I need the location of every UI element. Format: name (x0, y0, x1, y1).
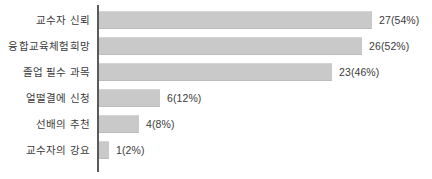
bar-value-label: 27(54%) (379, 10, 419, 30)
bar-value-label: 4(8%) (146, 114, 175, 134)
bar-fill (99, 141, 109, 159)
bar-fill (99, 11, 372, 29)
bar-fill (99, 37, 362, 55)
bar-value-label: 23(46%) (339, 62, 379, 82)
category-label: 융합교육체험희망 (0, 36, 90, 56)
bar-row: 졸업 필수 과목23(46%) (0, 62, 432, 82)
bar-chart: 교수자 신뢰27(54%)융합교육체험희망26(52%)졸업 필수 과목23(4… (0, 0, 432, 179)
category-label: 선배의 추천 (0, 114, 90, 134)
category-label: 교수자의 강요 (0, 140, 90, 160)
bar-row: 선배의 추천4(8%) (0, 114, 432, 134)
bar-row: 교수자의 강요1(2%) (0, 140, 432, 160)
bar-value-label: 6(12%) (167, 88, 201, 108)
bar-fill (99, 115, 139, 133)
bar-row: 융합교육체험희망26(52%) (0, 36, 432, 56)
bar (99, 63, 332, 81)
bar-value-label: 26(52%) (369, 36, 409, 56)
bar-value-label: 1(2%) (116, 140, 145, 160)
bar (99, 11, 372, 29)
category-label: 교수자 신뢰 (0, 10, 90, 30)
bar-row: 얼떨결에 신청6(12%) (0, 88, 432, 108)
bar (99, 115, 139, 133)
bar-fill (99, 63, 332, 81)
bar (99, 89, 160, 107)
bar (99, 141, 109, 159)
category-label: 졸업 필수 과목 (0, 62, 90, 82)
bar (99, 37, 362, 55)
bar-fill (99, 89, 160, 107)
bar-row: 교수자 신뢰27(54%) (0, 10, 432, 30)
category-label: 얼떨결에 신청 (0, 88, 90, 108)
